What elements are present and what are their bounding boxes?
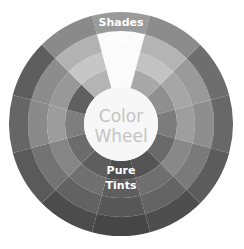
- wheel-segment-shades: [92, 214, 150, 236]
- tones-label: Tones: [103, 36, 139, 49]
- wheel-segment-tones: [192, 100, 214, 148]
- wheel-segment-tints: [102, 50, 140, 70]
- pure-label: Pure: [107, 164, 136, 177]
- wheel-segment-pure: [157, 110, 177, 139]
- center-label-line1: Color: [99, 106, 143, 126]
- shades-label: Shades: [98, 16, 144, 29]
- wheel-segment-tones: [28, 100, 50, 148]
- color-wheel-diagram: Color Wheel Shades Tones Pure Tints: [0, 0, 244, 249]
- wheel-segment-shades: [9, 95, 31, 153]
- wheel-segment-tones: [97, 195, 145, 217]
- wheel-segment-shades: [211, 95, 233, 153]
- wheel-segment-tints: [47, 105, 67, 143]
- wheel-segment-pure: [107, 68, 136, 88]
- wheel-segment-tints: [175, 105, 195, 143]
- center-label-line2: Wheel: [94, 126, 147, 146]
- tints-label: Tints: [106, 179, 137, 192]
- wheel-segment-pure: [65, 110, 85, 139]
